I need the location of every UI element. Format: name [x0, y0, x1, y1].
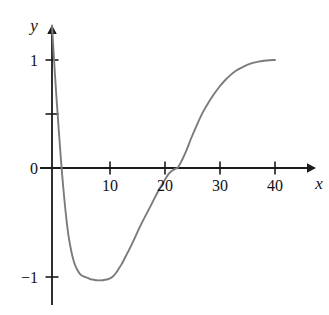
y-tick-label-neg1: −1: [21, 269, 38, 286]
x-axis-label: x: [314, 174, 323, 193]
data-curve: [52, 25, 275, 280]
y-axis-label: y: [28, 16, 38, 35]
x-tick-label-10: 10: [102, 177, 118, 194]
x-tick-label-30: 30: [212, 177, 228, 194]
y-tick-label-1: 1: [30, 52, 38, 69]
x-tick-label-20: 20: [157, 177, 173, 194]
x-axis-arrowhead: [307, 163, 316, 173]
x-tick-label-40: 40: [267, 177, 283, 194]
plot-canvas: 10 20 30 40 1 0 −1 y x: [0, 0, 329, 315]
y-tick-label-0: 0: [30, 160, 38, 177]
chart-figure: 10 20 30 40 1 0 −1 y x: [0, 0, 329, 315]
